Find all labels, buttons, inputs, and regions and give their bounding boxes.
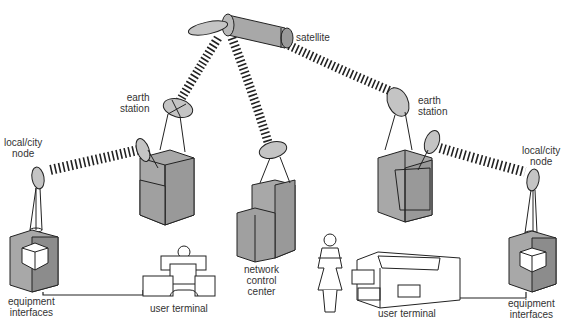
local-node-left-line1: local/city	[4, 137, 42, 148]
beam-left-earth-to-local	[50, 150, 138, 170]
user-terminal-right-label: user terminal	[378, 308, 436, 319]
satellite-label-text: satellite	[296, 32, 330, 43]
satellite-label: satellite	[296, 32, 330, 43]
user-terminal-left-label: user terminal	[150, 303, 208, 314]
beam-sat-to-network-control	[232, 38, 268, 142]
equipment-right-line2: interfaces	[508, 309, 555, 320]
earth-station-right-line1: earth	[418, 95, 447, 106]
beam-sat-to-right-earth	[282, 42, 400, 95]
equipment-interfaces-right-label: equipment interfaces	[508, 298, 555, 320]
earth-station-left-line2: station	[120, 103, 149, 114]
equipment-interfaces-right-icon	[509, 231, 556, 292]
earth-station-left-label: earth station	[120, 92, 149, 114]
local-node-left-label: local/city node	[4, 137, 42, 159]
beam-right-earth-to-local	[440, 148, 525, 172]
equipment-left-line1: equipment	[8, 296, 55, 307]
user-terminal-left-text: user terminal	[150, 303, 208, 314]
beam-sat-to-left-earth	[178, 38, 218, 104]
local-node-right-label: local/city node	[522, 145, 560, 167]
satellite-icon	[187, 14, 293, 48]
user-terminal-left-icon	[143, 246, 215, 296]
network-control-line3: center	[244, 286, 279, 297]
equipment-interfaces-left-label: equipment interfaces	[8, 296, 55, 318]
user-terminal-right-text: user terminal	[378, 308, 436, 319]
equipment-interfaces-left-icon	[10, 230, 58, 292]
wire-left	[43, 290, 143, 295]
network-control-line1: network	[244, 264, 279, 275]
local-node-left-line2: node	[4, 148, 42, 159]
satellite-network-diagram: satellite earth station earth station lo…	[0, 0, 570, 326]
local-node-right-line2: node	[522, 156, 560, 167]
local-node-left-icon	[30, 166, 46, 232]
equipment-left-line2: interfaces	[8, 307, 55, 318]
equipment-right-line1: equipment	[508, 298, 555, 309]
user-terminal-right-icon	[318, 234, 460, 312]
network-control-center-label: network control center	[244, 264, 279, 297]
earth-station-right-label: earth station	[418, 95, 447, 117]
earth-station-right-line2: station	[418, 106, 447, 117]
local-node-right-line1: local/city	[522, 145, 560, 156]
network-control-line2: control	[244, 275, 279, 286]
earth-station-left-line1: earth	[120, 92, 149, 103]
network-control-center-icon	[237, 139, 295, 262]
earth-station-left-icon	[133, 95, 195, 225]
local-node-right-icon	[525, 168, 541, 235]
